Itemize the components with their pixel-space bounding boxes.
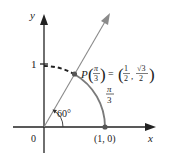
point-p-name: P	[80, 68, 88, 80]
coord-close-paren: )	[149, 65, 155, 84]
x-axis-label: x	[147, 132, 153, 144]
coord-y-denominator: 2	[139, 74, 143, 83]
point-p-arg-numerator: π	[94, 64, 99, 73]
coord-x-numerator: 1	[124, 64, 128, 73]
y-axis-label: y	[29, 9, 35, 21]
equals-sign: =	[108, 68, 114, 79]
y-tick-label: 1	[31, 58, 37, 70]
ray-arrowhead	[101, 13, 110, 25]
arc-dashed	[44, 66, 75, 74]
y-axis-arrowhead	[40, 14, 48, 25]
arc-label-numerator: π	[107, 84, 112, 94]
point-p-arg-denominator: 3	[94, 74, 98, 83]
arc-label-denominator: 3	[107, 95, 112, 105]
angle-label: 60°	[57, 108, 71, 119]
point-1-0	[102, 124, 107, 129]
origin-label: 0	[31, 133, 36, 144]
x-axis-arrowhead	[145, 123, 156, 131]
point-p-close-paren: )	[100, 65, 106, 84]
point-p	[72, 71, 77, 76]
coord-y-numerator: √3	[137, 64, 145, 73]
unit-circle-diagram: y x 0 1 (1, 0) 60° π 3 P ( π 3 ) = ( 1 2…	[0, 0, 170, 167]
point-1-0-label: (1, 0)	[94, 133, 116, 145]
coord-comma: ,	[131, 71, 133, 81]
coord-x-denominator: 2	[124, 74, 128, 83]
